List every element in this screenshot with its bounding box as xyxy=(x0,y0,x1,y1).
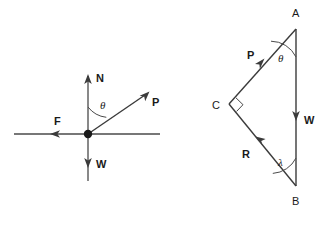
left-free-body-diagram: N P F W θ xyxy=(14,72,160,181)
label-angle-lambda: λ xyxy=(277,156,283,168)
label-vertex-b: B xyxy=(292,195,299,207)
label-angle-theta-right: θ xyxy=(278,52,284,64)
label-side-r: R xyxy=(242,148,250,160)
label-vertex-c: C xyxy=(212,99,220,111)
triangle-side-r xyxy=(229,104,296,186)
label-side-w: W xyxy=(304,114,315,126)
right-force-triangle: A B C P W R θ λ xyxy=(212,7,315,207)
triangle-side-r-arrowhead xyxy=(256,137,266,146)
vector-p-arrowhead xyxy=(140,92,150,102)
origin-point-dot xyxy=(84,130,92,138)
figure-canvas: N P F W θ A xyxy=(0,0,329,229)
triangle-side-p-arrowhead xyxy=(255,59,265,69)
label-side-p: P xyxy=(247,49,254,61)
label-vector-w: W xyxy=(96,158,107,170)
label-vector-f: F xyxy=(54,115,61,127)
label-angle-theta-left: θ xyxy=(100,99,106,111)
label-vector-p: P xyxy=(152,96,159,108)
right-angle-marker-c xyxy=(236,98,243,112)
triangle-side-p xyxy=(229,29,296,104)
physics-figure: N P F W θ A xyxy=(0,0,329,229)
label-vector-n: N xyxy=(96,72,104,84)
label-vertex-a: A xyxy=(292,7,300,19)
